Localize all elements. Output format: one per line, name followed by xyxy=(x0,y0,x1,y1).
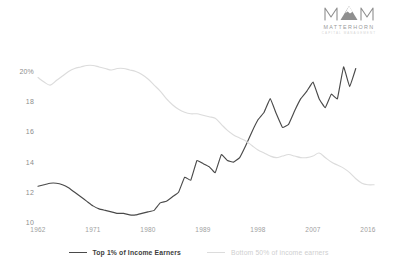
x-tick-label: 1998 xyxy=(238,226,278,233)
legend-item-bottom-50-percent[interactable]: Bottom 50% of income earners xyxy=(207,249,329,256)
x-tick-label: 1962 xyxy=(18,226,58,233)
legend-swatch-icon xyxy=(69,252,87,253)
y-tick-label: 12 xyxy=(10,189,34,196)
income-share-line-chart: 20%1816141210 19621971198019891998200720… xyxy=(0,0,397,274)
legend-swatch-icon xyxy=(207,252,225,253)
series-line xyxy=(38,67,356,215)
legend-label: Top 1% of Income Earners xyxy=(93,249,181,256)
x-tick-label: 1989 xyxy=(183,226,223,233)
x-tick-label: 1971 xyxy=(73,226,113,233)
chart-legend: Top 1% of Income Earners Bottom 50% of i… xyxy=(0,249,397,256)
y-tick-label: 20% xyxy=(10,68,34,75)
y-tick-label: 10 xyxy=(10,219,34,226)
y-tick-label: 18 xyxy=(10,98,34,105)
legend-label: Bottom 50% of income earners xyxy=(231,249,329,256)
legend-item-top-1-percent[interactable]: Top 1% of Income Earners xyxy=(69,249,181,256)
x-tick-label: 2007 xyxy=(293,226,333,233)
x-tick-label: 2016 xyxy=(348,226,388,233)
series-line xyxy=(38,65,374,185)
y-tick-label: 14 xyxy=(10,159,34,166)
y-tick-label: 16 xyxy=(10,128,34,135)
x-tick-label: 1980 xyxy=(128,226,168,233)
